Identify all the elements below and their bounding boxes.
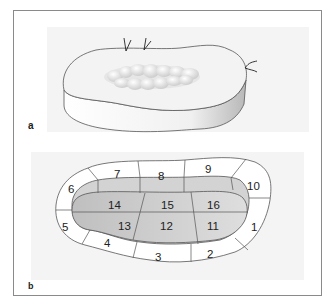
panel-a [47,27,309,132]
panel-b: 1 2 3 4 5 6 7 8 9 10 11 12 13 14 15 16 [31,152,304,280]
segment-9: 9 [205,163,211,175]
segment-11: 11 [207,220,219,232]
figure-canvas: a [0,0,332,302]
panel-a-label: a [28,120,34,131]
segment-5: 5 [62,221,68,233]
segment-15: 15 [161,199,174,211]
segment-1: 1 [251,221,257,233]
segment-7: 7 [114,168,120,180]
segment-6: 6 [68,183,74,195]
segment-8: 8 [158,170,164,182]
segment-10: 10 [247,180,260,192]
segment-14: 14 [108,199,121,211]
panel-b-label: b [28,281,34,291]
segment-4: 4 [104,237,111,249]
segment-13: 13 [118,220,131,232]
segment-3: 3 [155,251,161,263]
segment-16: 16 [207,199,220,211]
segment-12: 12 [160,220,173,232]
segment-2: 2 [207,248,213,260]
